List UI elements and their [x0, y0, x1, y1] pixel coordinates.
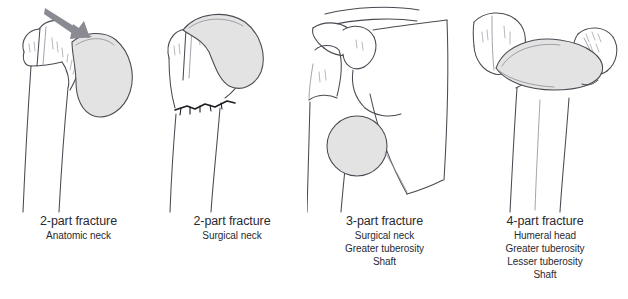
panel-4-line-1: Humeral head — [462, 229, 628, 242]
panel-1: 2-part fracture Anatomic neck — [0, 0, 157, 299]
panel-2-title: 2-part fracture — [157, 213, 307, 229]
panel-1-caption: 2-part fracture Anatomic neck — [0, 213, 157, 242]
panel-3-title: 3-part fracture — [307, 213, 462, 229]
panel-1-line-1: Anatomic neck — [0, 229, 157, 242]
panel-3-line-1: Surgical neck — [307, 229, 462, 242]
panel-2-illustration — [157, 0, 307, 215]
panel-2-line-1: Surgical neck — [157, 229, 307, 242]
panel-2: 2-part fracture Surgical neck — [157, 0, 307, 299]
panel-4-line-4: Shaft — [462, 268, 628, 281]
panel-3-caption: 3-part fracture Surgical neck Greater tu… — [307, 213, 462, 268]
panel-4-caption: 4-part fracture Humeral head Greater tub… — [462, 213, 628, 281]
panel-4-illustration — [462, 0, 628, 215]
panel-2-caption: 2-part fracture Surgical neck — [157, 213, 307, 242]
panel-4: 4-part fracture Humeral head Greater tub… — [462, 0, 628, 299]
panel-4-line-3: Lesser tuberosity — [462, 255, 628, 268]
panel-4-line-2: Greater tuberosity — [462, 242, 628, 255]
panel-3-line-2: Greater tuberosity — [307, 242, 462, 255]
panel-4-title: 4-part fracture — [462, 213, 628, 229]
panel-3-illustration — [307, 0, 462, 215]
panel-1-illustration — [0, 0, 157, 215]
panel-1-title: 2-part fracture — [0, 213, 157, 229]
panel-3-line-3: Shaft — [307, 255, 462, 268]
panel-3: 3-part fracture Surgical neck Greater tu… — [307, 0, 462, 299]
fracture-classification-figure: 2-part fracture Anatomic neck — [0, 0, 628, 299]
